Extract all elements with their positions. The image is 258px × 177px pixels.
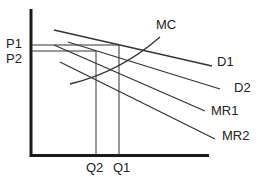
q2-label: Q2 xyxy=(86,160,103,175)
mr1-label: MR1 xyxy=(211,103,238,118)
mr2-curve xyxy=(60,62,215,139)
mc-label: MC xyxy=(156,17,176,32)
d1-curve xyxy=(54,30,212,66)
p2-label: P2 xyxy=(6,51,22,66)
p1-label: P1 xyxy=(6,36,22,51)
monopoly-diagram: P1 P2 Q2 Q1 MC D1 D2 MR1 MR2 xyxy=(0,0,258,177)
d1-label: D1 xyxy=(217,54,234,69)
q1-label: Q1 xyxy=(113,160,130,175)
mr2-label: MR2 xyxy=(222,128,249,143)
d2-label: D2 xyxy=(234,80,251,95)
